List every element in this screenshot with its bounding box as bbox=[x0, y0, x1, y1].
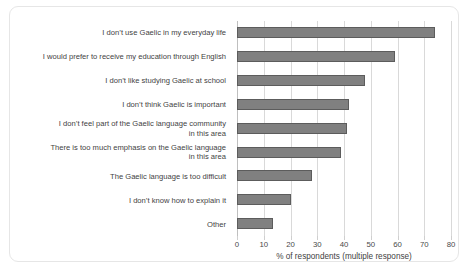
category-axis-labels: I don’t use Gaelic in my everyday lifeI … bbox=[10, 21, 232, 236]
category-label: I don’t use Gaelic in my everyday life bbox=[10, 28, 226, 37]
category-label: I don’t think Gaelic is important bbox=[10, 100, 226, 109]
gridline bbox=[451, 21, 452, 236]
category-label: I don’t know how to explain it bbox=[10, 196, 226, 205]
category-label: Other bbox=[10, 220, 226, 229]
bar bbox=[237, 147, 341, 158]
bar-row bbox=[237, 212, 451, 236]
bar bbox=[237, 75, 365, 86]
bar bbox=[237, 51, 395, 62]
bar-row bbox=[237, 164, 451, 188]
bar bbox=[237, 27, 435, 38]
x-axis-tick-labels: 01020304050607080 bbox=[237, 240, 451, 252]
bar bbox=[237, 99, 349, 110]
category-label: The Gaelic language is too difficult bbox=[10, 172, 226, 181]
x-tick-label: 70 bbox=[420, 240, 429, 249]
bar-row bbox=[237, 188, 451, 212]
category-label: I don’t like studying Gaelic at school bbox=[10, 76, 226, 85]
category-label: I don’t feel part of the Gaelic language… bbox=[10, 119, 226, 137]
bar-row bbox=[237, 93, 451, 117]
plot-area bbox=[237, 21, 451, 236]
bar bbox=[237, 218, 273, 229]
x-tick-label: 80 bbox=[447, 240, 456, 249]
bar-row bbox=[237, 69, 451, 93]
x-tick-label: 30 bbox=[313, 240, 322, 249]
bar bbox=[237, 170, 312, 181]
chart-container: I don’t use Gaelic in my everyday lifeI … bbox=[9, 6, 459, 262]
x-tick-label: 0 bbox=[235, 240, 239, 249]
bar-row bbox=[237, 117, 451, 141]
x-tick-label: 40 bbox=[340, 240, 349, 249]
x-tick-label: 50 bbox=[366, 240, 375, 249]
category-label: There is too much emphasis on the Gaelic… bbox=[10, 143, 226, 161]
bar bbox=[237, 194, 291, 205]
category-label: I would prefer to receive my education t… bbox=[10, 52, 226, 61]
x-tick-label: 60 bbox=[393, 240, 402, 249]
x-axis-title: % of respondents (multiple response) bbox=[237, 252, 451, 261]
bar-row bbox=[237, 141, 451, 165]
bar bbox=[237, 123, 347, 134]
x-tick-label: 10 bbox=[259, 240, 268, 249]
bar-row bbox=[237, 21, 451, 45]
x-tick-label: 20 bbox=[286, 240, 295, 249]
bar-row bbox=[237, 45, 451, 69]
